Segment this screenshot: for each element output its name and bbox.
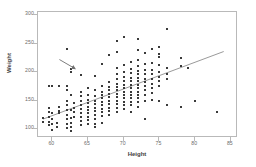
x-tick-mark	[87, 137, 88, 141]
x-tick-label: 80	[184, 141, 204, 146]
y-tick-label: 300	[8, 11, 34, 16]
x-tick-label: 65	[77, 141, 97, 146]
annotation-arrow	[59, 60, 75, 69]
x-tick-mark	[230, 137, 231, 141]
y-tick-label: 100	[8, 125, 34, 130]
x-tick-label: 60	[41, 141, 61, 146]
y-tick-label: 150	[8, 97, 34, 102]
x-tick-mark	[194, 137, 195, 141]
x-tick-label: 70	[113, 141, 133, 146]
plot-area	[37, 11, 237, 137]
scatter-chart: Weight Height 100150200250300 6065707580…	[0, 0, 256, 167]
y-axis-title: Weight	[6, 43, 12, 83]
y-tick-label: 250	[8, 40, 34, 45]
x-tick-label: 85	[220, 141, 240, 146]
x-tick-mark	[158, 137, 159, 141]
x-axis-title: Height	[37, 151, 237, 157]
annotation-arrow-layer	[38, 12, 236, 136]
x-tick-mark	[123, 137, 124, 141]
x-tick-mark	[51, 137, 52, 141]
x-tick-label: 75	[148, 141, 168, 146]
y-tick-label: 200	[8, 68, 34, 73]
